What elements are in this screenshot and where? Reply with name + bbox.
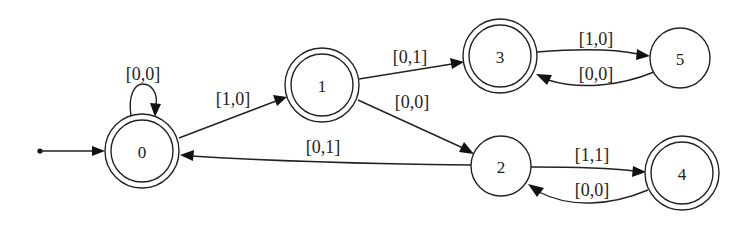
edge-label-0-1: [1,0] [216,89,251,109]
state-node-2: 2 [471,136,531,196]
edge-1-to-3: [0,1] [359,47,464,79]
state-label-5: 5 [676,50,685,69]
state-label-4: 4 [678,165,687,184]
edge-0-to-1: [1,0] [179,89,287,138]
arrowhead-icon [180,150,194,161]
edge-1-to-2: [0,0] [358,92,474,154]
arrowhead-icon [459,142,474,154]
arrowhead-icon [632,166,646,177]
edge-3-to-5: [1,0] [537,29,650,60]
start-arrow [37,146,105,156]
arrowhead-icon [536,74,552,85]
arrowhead-icon [636,49,650,60]
state-diagram: [0,0] [1,0] [0,1] [0,0] [0,1] [1,0] [0,0… [0,0,756,229]
edge-label-0-0: [0,0] [126,64,161,84]
state-label-1: 1 [318,77,327,96]
state-node-1: 1 [285,48,359,122]
state-node-4: 4 [645,136,719,210]
edge-label-3-5: [1,0] [579,29,614,49]
state-node-0: 0 [105,114,179,188]
state-node-3: 3 [463,19,537,93]
state-label-3: 3 [496,48,505,67]
state-node-5: 5 [650,28,710,88]
edge-label-1-3: [0,1] [393,47,428,67]
arrowhead-icon [528,184,544,197]
arrowhead-icon [450,58,464,69]
edge-label-4-2: [0,0] [575,180,610,200]
state-label-0: 0 [138,143,147,162]
edge-5-to-3: [0,0] [536,64,654,86]
edge-label-1-2: [0,0] [395,92,430,112]
edge-2-to-4: [1,1] [531,145,646,177]
state-label-2: 2 [497,158,506,177]
edge-label-2-0: [0,1] [306,137,341,157]
arrowhead-icon [273,95,287,106]
edge-0-to-0: [0,0] [126,64,161,117]
edge-4-to-2: [0,0] [528,180,648,203]
arrowhead-icon [92,146,105,156]
edge-label-2-4: [1,1] [575,145,610,165]
edge-label-5-3: [0,0] [579,64,614,84]
edge-2-to-0: [0,1] [180,137,471,165]
